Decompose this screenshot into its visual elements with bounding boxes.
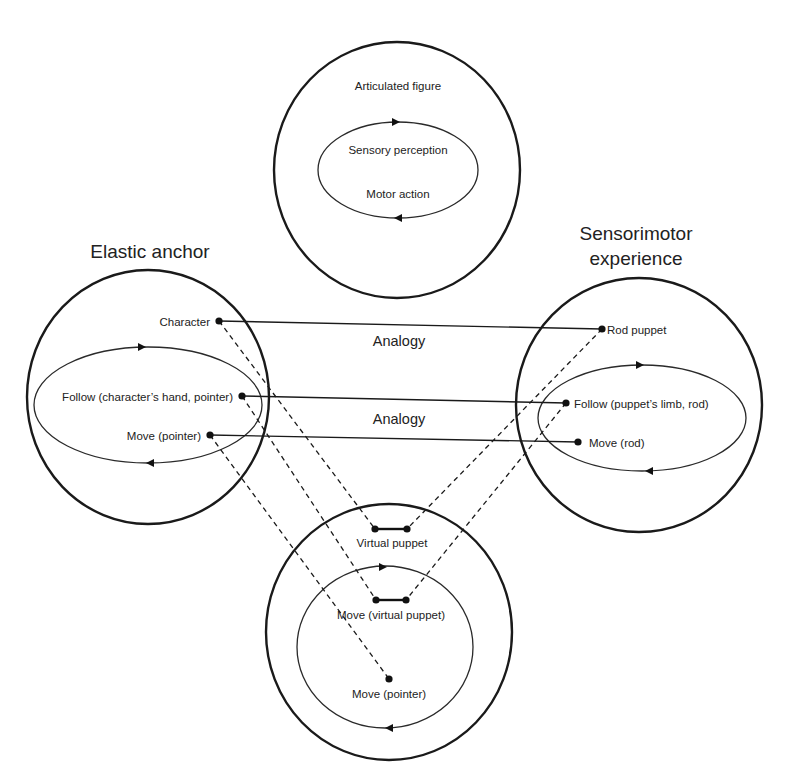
motor-action-label: Motor action xyxy=(366,188,429,200)
move-rod-node xyxy=(574,438,581,445)
move-pointer-node xyxy=(206,431,213,438)
follow-puppet-limb-label: Follow (puppet’s limb, rod) xyxy=(574,398,709,410)
right-circle-group: Sensorimotor experience Rod puppet Follo… xyxy=(516,223,762,532)
bottom-circle-group: Virtual puppet Move (virtual puppet) Mov… xyxy=(266,504,512,760)
follow-character-hand-label: Follow (character’s hand, pointer) xyxy=(62,391,233,403)
rod-puppet-node xyxy=(598,325,605,332)
move-pointer-bottom-label: Move (pointer) xyxy=(352,688,426,700)
cycle-arrow-right-icon xyxy=(392,118,400,126)
left-inner-cycle xyxy=(34,347,262,463)
virtual-puppet-right-node xyxy=(403,525,410,532)
virtual-puppet-label: Virtual puppet xyxy=(357,537,429,549)
move-rod-label: Move (rod) xyxy=(589,437,645,449)
sensorimotor-heading-line2: experience xyxy=(590,248,683,269)
move-virtual-puppet-left-node xyxy=(372,596,379,603)
cycle-arrow-left-icon xyxy=(645,467,653,475)
character-node xyxy=(215,317,222,324)
rod-puppet-label: Rod puppet xyxy=(607,324,667,336)
character-to-virtual-puppet-dashed xyxy=(219,321,375,529)
move-pointer-label: Move (pointer) xyxy=(127,430,201,442)
elastic-anchor-heading: Elastic anchor xyxy=(90,241,210,262)
move-pointer-to-move-rod-line xyxy=(210,435,578,442)
analogy-label-lower: Analogy xyxy=(373,411,426,427)
follow-character-node xyxy=(238,392,245,399)
left-circle-group: Elastic anchor Character Follow (charact… xyxy=(27,241,269,524)
move-virtual-puppet-right-node xyxy=(402,596,409,603)
mapping-connectors xyxy=(210,321,602,679)
cycle-arrow-right-icon xyxy=(138,343,146,351)
cycle-arrow-right-icon xyxy=(379,563,387,571)
cycle-arrow-left-icon xyxy=(394,214,402,222)
move-pointer-bottom-node xyxy=(385,675,392,682)
right-inner-cycle xyxy=(538,365,746,471)
follow-puppet-to-move-virtual-puppet-dashed xyxy=(406,403,566,600)
analogy-label-upper: Analogy xyxy=(373,333,426,349)
cycle-arrow-left-icon xyxy=(146,459,154,467)
cycle-arrow-right-icon xyxy=(636,361,644,369)
cycle-arrow-left-icon xyxy=(385,724,393,732)
move-pointer-to-move-pointer-dashed xyxy=(210,435,389,679)
diagram-canvas: Articulated figure Sensory perception Mo… xyxy=(0,0,790,784)
sensory-perception-label: Sensory perception xyxy=(348,144,447,156)
virtual-puppet-left-node xyxy=(371,525,378,532)
character-label: Character xyxy=(160,316,211,328)
rod-puppet-to-virtual-puppet-dashed xyxy=(407,329,602,529)
top-inner-cycle xyxy=(318,122,478,218)
articulated-figure-label: Articulated figure xyxy=(355,80,441,92)
top-circle-group: Articulated figure Sensory perception Mo… xyxy=(274,42,520,298)
follow-puppet-node xyxy=(562,399,569,406)
move-virtual-puppet-label: Move (virtual puppet) xyxy=(337,609,445,621)
sensorimotor-heading-line1: Sensorimotor xyxy=(580,223,694,244)
